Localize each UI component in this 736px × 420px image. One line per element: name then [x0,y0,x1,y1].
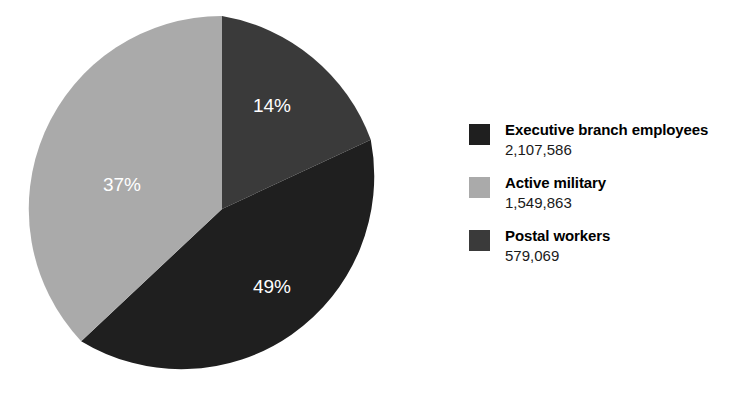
pie-chart-figure: 14% 49% 37% Executive branch employees 2… [0,0,736,420]
legend-label-postal-workers: Postal workers [505,228,610,243]
legend-value-executive-branch-employees: 2,107,586 [505,142,708,157]
legend-swatch-icon-executive-branch-employees [469,124,490,145]
pie-label-active-military: 37% [103,174,141,195]
pie-label-postal-workers: 14% [253,95,291,116]
pie-chart-graphic: 14% 49% 37% [0,0,450,420]
legend-text-postal-workers: Postal workers 579,069 [505,228,610,263]
legend-item-active-military[interactable]: Active military 1,549,863 [469,175,729,210]
legend-value-postal-workers: 579,069 [505,248,610,263]
chart-legend: Executive branch employees 2,107,586 Act… [469,122,729,281]
pie-label-executive-branch: 49% [253,276,291,297]
legend-label-active-military: Active military [505,175,606,190]
legend-item-postal-workers[interactable]: Postal workers 579,069 [469,228,729,263]
legend-item-executive-branch-employees[interactable]: Executive branch employees 2,107,586 [469,122,729,157]
legend-text-active-military: Active military 1,549,863 [505,175,606,210]
legend-swatch-icon-active-military [469,177,490,198]
legend-label-executive-branch-employees: Executive branch employees [505,122,708,137]
legend-value-active-military: 1,549,863 [505,195,606,210]
legend-text-executive-branch-employees: Executive branch employees 2,107,586 [505,122,708,157]
legend-swatch-icon-postal-workers [469,230,490,251]
